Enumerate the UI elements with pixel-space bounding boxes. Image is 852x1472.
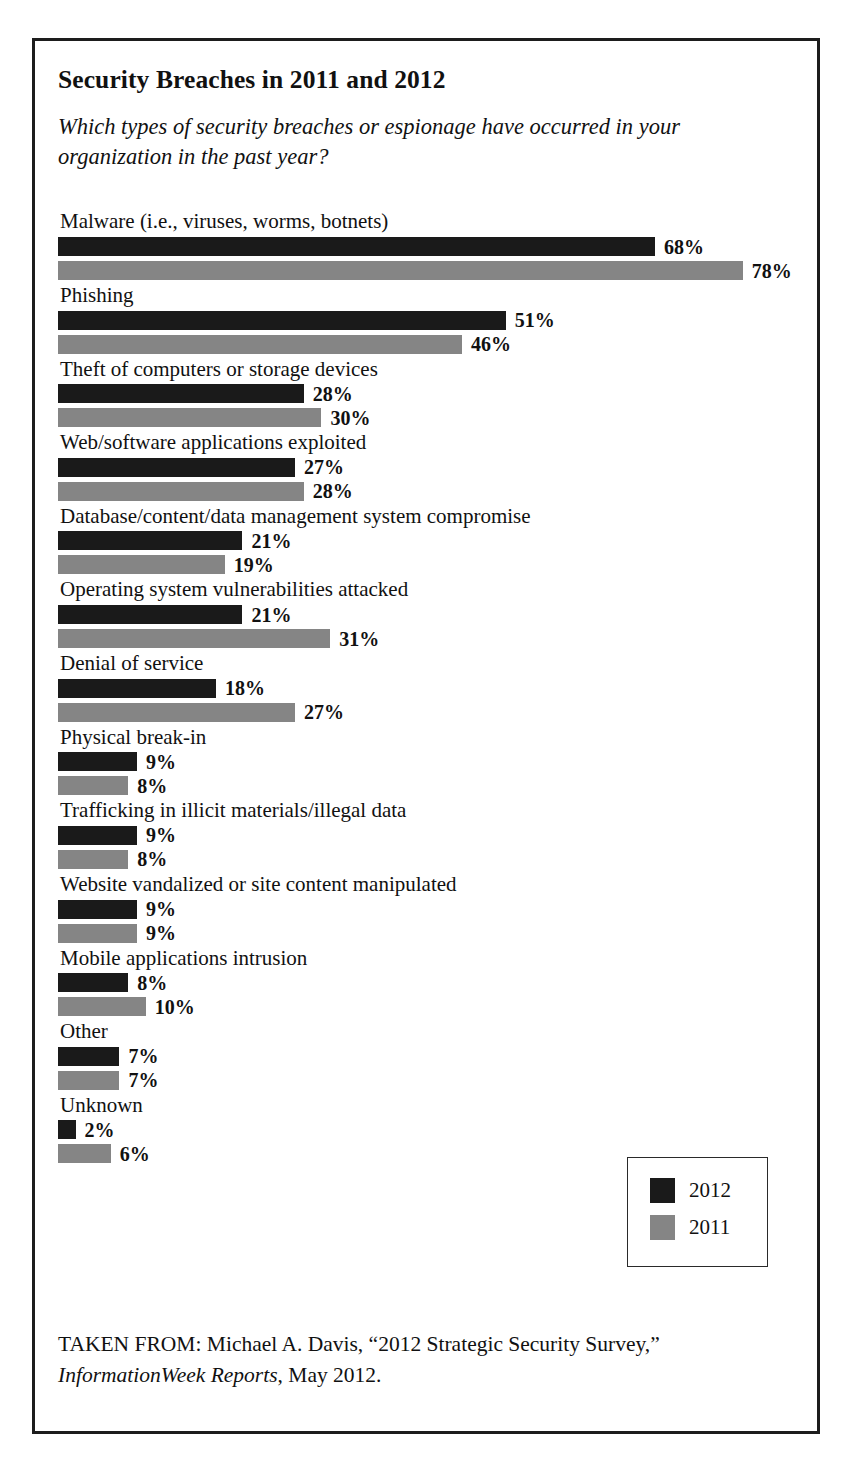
bar-value-label: 27%	[304, 702, 344, 722]
bar-category-label: Malware (i.e., viruses, worms, botnets)	[58, 209, 803, 235]
bar-2011	[58, 850, 128, 869]
bar-row: 21%	[58, 530, 803, 551]
bar-group: Physical break-in9%8%	[58, 725, 803, 797]
bar-2011	[58, 482, 304, 501]
legend-label-2012: 2012	[689, 1180, 731, 1201]
bar-2011	[58, 408, 321, 427]
bar-row: 51%	[58, 310, 803, 331]
bar-2011	[58, 335, 462, 354]
bar-group: Unknown2%6%	[58, 1093, 803, 1165]
bar-row: 8%	[58, 775, 803, 796]
bar-group: Denial of service18%27%	[58, 651, 803, 723]
bar-value-label: 9%	[146, 923, 176, 943]
legend-swatch-2012	[650, 1178, 675, 1203]
bar-row: 9%	[58, 825, 803, 846]
bar-row: 78%	[58, 260, 803, 281]
figure-frame: Security Breaches in 2011 and 2012 Which…	[32, 38, 820, 1434]
bar-group: Database/content/data management system …	[58, 504, 803, 576]
bar-category-label: Physical break-in	[58, 725, 803, 751]
bar-row: 31%	[58, 628, 803, 649]
bar-2012	[58, 605, 242, 624]
bar-category-label: Other	[58, 1019, 803, 1045]
bar-value-label: 46%	[471, 334, 511, 354]
bar-2011	[58, 1144, 111, 1163]
bar-category-label: Phishing	[58, 283, 803, 309]
bar-value-label: 21%	[251, 531, 291, 551]
bar-value-label: 28%	[313, 481, 353, 501]
bar-category-label: Denial of service	[58, 651, 803, 677]
bar-2012	[58, 752, 137, 771]
bar-row: 7%	[58, 1046, 803, 1067]
bar-2012	[58, 237, 655, 256]
bar-chart: Malware (i.e., viruses, worms, botnets)6…	[58, 209, 803, 1164]
bar-2012	[58, 826, 137, 845]
bar-2011	[58, 997, 146, 1016]
bar-row: 21%	[58, 604, 803, 625]
bar-row: 27%	[58, 457, 803, 478]
bar-row: 9%	[58, 923, 803, 944]
bar-row: 46%	[58, 334, 803, 355]
bar-2012	[58, 1047, 119, 1066]
bar-2011	[58, 776, 128, 795]
bar-2012	[58, 1120, 76, 1139]
bar-row: 7%	[58, 1070, 803, 1091]
bar-2011	[58, 703, 295, 722]
bar-category-label: Trafficking in illicit materials/illegal…	[58, 798, 803, 824]
bar-row: 2%	[58, 1119, 803, 1140]
bar-group: Phishing51%46%	[58, 283, 803, 355]
bar-row: 9%	[58, 899, 803, 920]
bar-group: Theft of computers or storage devices28%…	[58, 357, 803, 429]
bar-value-label: 28%	[313, 384, 353, 404]
chart-legend: 2012 2011	[627, 1157, 768, 1267]
bar-value-label: 78%	[752, 261, 792, 281]
bar-2011	[58, 629, 330, 648]
bar-value-label: 68%	[664, 237, 704, 257]
bar-value-label: 8%	[137, 973, 167, 993]
bar-value-label: 6%	[120, 1144, 150, 1164]
bar-category-label: Operating system vulnerabilities attacke…	[58, 577, 803, 603]
legend-item-2012: 2012	[650, 1178, 767, 1203]
bar-row: 27%	[58, 702, 803, 723]
bar-2012	[58, 311, 506, 330]
bar-value-label: 18%	[225, 678, 265, 698]
bar-value-label: 9%	[146, 825, 176, 845]
bar-value-label: 8%	[137, 849, 167, 869]
figure-inner: Security Breaches in 2011 and 2012 Which…	[58, 57, 803, 1421]
bar-row: 8%	[58, 849, 803, 870]
legend-swatch-2011	[650, 1215, 675, 1240]
bar-value-label: 21%	[251, 605, 291, 625]
bar-2011	[58, 924, 137, 943]
bar-group: Other7%7%	[58, 1019, 803, 1091]
bar-category-label: Database/content/data management system …	[58, 504, 803, 530]
source-prefix: TAKEN FROM: Michael A. Davis, “2012 Stra…	[58, 1332, 660, 1356]
bar-value-label: 30%	[330, 408, 370, 428]
bar-row: 19%	[58, 554, 803, 575]
chart-question: Which types of security breaches or espi…	[58, 112, 738, 172]
bar-row: 30%	[58, 407, 803, 428]
bar-value-label: 19%	[234, 555, 274, 575]
bar-value-label: 7%	[128, 1046, 158, 1066]
source-note: TAKEN FROM: Michael A. Davis, “2012 Stra…	[58, 1329, 778, 1390]
legend-label-2011: 2011	[689, 1217, 730, 1238]
bar-value-label: 2%	[85, 1120, 115, 1140]
bar-row: 10%	[58, 996, 803, 1017]
bar-row: 8%	[58, 972, 803, 993]
page-title: Security Breaches in 2011 and 2012	[58, 57, 803, 96]
bar-row: 9%	[58, 751, 803, 772]
legend-item-2011: 2011	[650, 1215, 767, 1240]
bar-2012	[58, 458, 295, 477]
bar-row: 28%	[58, 383, 803, 404]
bar-group: Malware (i.e., viruses, worms, botnets)6…	[58, 209, 803, 281]
bar-row: 68%	[58, 236, 803, 257]
bar-2012	[58, 900, 137, 919]
bar-2012	[58, 679, 216, 698]
bar-2012	[58, 973, 128, 992]
bar-group: Operating system vulnerabilities attacke…	[58, 577, 803, 649]
bar-category-label: Website vandalized or site content manip…	[58, 872, 803, 898]
bar-row: 28%	[58, 481, 803, 502]
bar-value-label: 9%	[146, 899, 176, 919]
bar-group: Trafficking in illicit materials/illegal…	[58, 798, 803, 870]
source-publication: InformationWeek Reports	[58, 1363, 278, 1387]
bar-category-label: Theft of computers or storage devices	[58, 357, 803, 383]
bar-value-label: 9%	[146, 752, 176, 772]
